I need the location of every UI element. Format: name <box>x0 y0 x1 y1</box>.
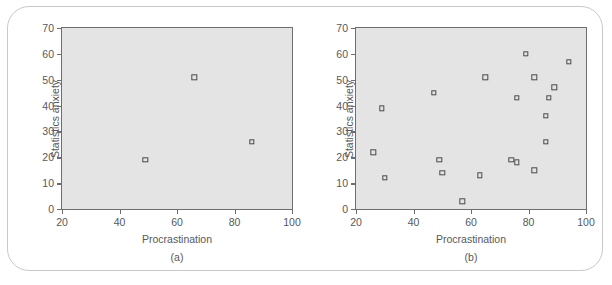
data-point <box>543 139 548 144</box>
panel-caption-b: (b) <box>465 251 478 263</box>
data-point <box>523 51 528 56</box>
y-tick-label-b: 40 <box>336 100 348 112</box>
x-tick-label-a: 80 <box>229 216 241 228</box>
y-tick-mark-b <box>351 28 356 29</box>
y-tick-label-b: 20 <box>336 151 348 163</box>
y-tick-label-b: 60 <box>336 48 348 60</box>
x-tick-label-b: 20 <box>350 216 362 228</box>
x-tick-mark-a <box>62 209 63 214</box>
x-tick-label-a: 20 <box>56 216 68 228</box>
y-tick-mark-a <box>57 80 62 81</box>
y-tick-mark-a <box>57 131 62 132</box>
y-tick-label-a: 30 <box>42 125 54 137</box>
figure-container: Statistics anxiety Procrastination (a) 0… <box>7 6 603 271</box>
x-axis-title-a: Procrastination <box>142 233 212 245</box>
x-tick-mark-b <box>356 209 357 214</box>
data-point <box>440 170 445 175</box>
y-tick-label-a: 50 <box>42 74 54 86</box>
data-point <box>431 90 436 95</box>
data-point <box>371 149 376 154</box>
panel-a: Statistics anxiety Procrastination (a) 0… <box>8 7 306 272</box>
y-tick-mark-a <box>57 106 62 107</box>
x-tick-label-a: 60 <box>171 216 183 228</box>
x-tick-mark-b <box>471 209 472 214</box>
x-tick-mark-a <box>177 209 178 214</box>
x-tick-mark-a <box>120 209 121 214</box>
y-tick-mark-b <box>351 157 356 158</box>
x-tick-label-b: 40 <box>408 216 420 228</box>
panel-b: Statistics anxiety Procrastination (b) 0… <box>306 7 604 272</box>
y-tick-mark-a <box>57 183 62 184</box>
data-point <box>437 157 442 162</box>
y-tick-label-b: 70 <box>336 22 348 34</box>
x-tick-mark-a <box>235 209 236 214</box>
y-tick-mark-b <box>351 54 356 55</box>
data-point <box>249 139 254 144</box>
data-point <box>552 85 557 90</box>
data-point <box>543 113 548 118</box>
y-tick-mark-b <box>351 106 356 107</box>
y-tick-mark-a <box>57 54 62 55</box>
y-tick-label-a: 20 <box>42 151 54 163</box>
data-point <box>566 59 571 64</box>
y-tick-label-a: 60 <box>42 48 54 60</box>
data-point <box>192 74 197 79</box>
data-point <box>514 160 519 165</box>
y-tick-mark-b <box>351 131 356 132</box>
data-point <box>509 157 514 162</box>
y-tick-label-b: 0 <box>342 203 348 215</box>
data-point <box>532 74 537 79</box>
x-tick-label-b: 80 <box>523 216 535 228</box>
x-tick-label-a: 100 <box>283 216 301 228</box>
y-tick-label-a: 10 <box>42 177 54 189</box>
y-tick-label-b: 10 <box>336 177 348 189</box>
y-tick-mark-b <box>351 80 356 81</box>
data-point <box>460 199 465 204</box>
y-axis-title-b: Statistics anxiety <box>343 79 355 157</box>
plot-area-b: Statistics anxiety Procrastination (b) 0… <box>355 27 587 210</box>
y-tick-mark-a <box>57 157 62 158</box>
y-tick-mark-a <box>57 28 62 29</box>
y-tick-label-a: 40 <box>42 100 54 112</box>
x-tick-label-b: 60 <box>465 216 477 228</box>
x-tick-mark-b <box>586 209 587 214</box>
data-point <box>382 175 387 180</box>
data-point <box>477 173 482 178</box>
x-axis-title-b: Procrastination <box>436 233 506 245</box>
x-tick-mark-a <box>292 209 293 214</box>
y-tick-label-a: 70 <box>42 22 54 34</box>
x-tick-label-b: 100 <box>577 216 595 228</box>
x-tick-mark-b <box>529 209 530 214</box>
x-tick-mark-b <box>414 209 415 214</box>
panel-caption-a: (a) <box>171 251 184 263</box>
data-point <box>546 95 551 100</box>
y-tick-label-a: 0 <box>48 203 54 215</box>
y-tick-label-b: 50 <box>336 74 348 86</box>
data-point <box>143 157 148 162</box>
data-point <box>514 95 519 100</box>
data-point <box>532 168 537 173</box>
y-axis-title-a: Statistics anxiety <box>49 79 61 157</box>
data-point <box>483 74 488 79</box>
y-tick-label-b: 30 <box>336 125 348 137</box>
y-tick-mark-b <box>351 183 356 184</box>
plot-area-a: Statistics anxiety Procrastination (a) 0… <box>61 27 293 210</box>
x-tick-label-a: 40 <box>114 216 126 228</box>
data-point <box>379 105 384 110</box>
